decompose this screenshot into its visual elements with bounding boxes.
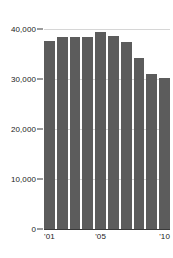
- bar-slot: [82, 22, 93, 229]
- bar: [44, 41, 55, 229]
- bar-slot: [95, 22, 106, 229]
- y-axis-tick-mark: [37, 129, 43, 130]
- x-axis-tick-label: '01: [44, 232, 55, 241]
- x-axis-tick-label: '05: [95, 232, 106, 241]
- bar: [82, 37, 93, 229]
- bar: [70, 37, 81, 229]
- y-axis-tick-label: 30,000: [11, 75, 36, 84]
- bar: [95, 32, 106, 229]
- y-axis-tick-label: 0: [31, 225, 36, 234]
- y-axis-tick-label: 10,000: [11, 175, 36, 184]
- y-axis-tick-mark: [37, 229, 43, 230]
- y-axis-tick-mark: [37, 29, 43, 30]
- plot-area: [44, 22, 170, 229]
- bar: [146, 74, 157, 229]
- bar-chart: 010,00020,00030,00040,000 '01'05'10: [0, 0, 173, 258]
- bar: [57, 37, 68, 229]
- y-axis-labels: 010,00020,00030,00040,000: [0, 22, 36, 229]
- bar-slot: [159, 22, 170, 229]
- y-axis-tick-label: 20,000: [11, 125, 36, 134]
- bar-slot: [57, 22, 68, 229]
- x-axis-labels: '01'05'10: [44, 232, 170, 248]
- bar-slot: [146, 22, 157, 229]
- bar-slot: [134, 22, 145, 229]
- bar: [108, 36, 119, 229]
- bar-series: [44, 22, 170, 229]
- x-axis-tick-label: '10: [159, 232, 170, 241]
- bar-slot: [121, 22, 132, 229]
- bar: [134, 58, 145, 229]
- y-axis-tick-mark: [37, 179, 43, 180]
- bar-slot: [70, 22, 81, 229]
- bar-slot: [108, 22, 119, 229]
- bar: [159, 78, 170, 229]
- x-axis-line: [44, 229, 170, 230]
- bar: [121, 42, 132, 229]
- y-axis-ticks: [37, 22, 43, 229]
- bar-slot: [44, 22, 55, 229]
- y-axis-tick-mark: [37, 79, 43, 80]
- y-axis-tick-label: 40,000: [11, 25, 36, 34]
